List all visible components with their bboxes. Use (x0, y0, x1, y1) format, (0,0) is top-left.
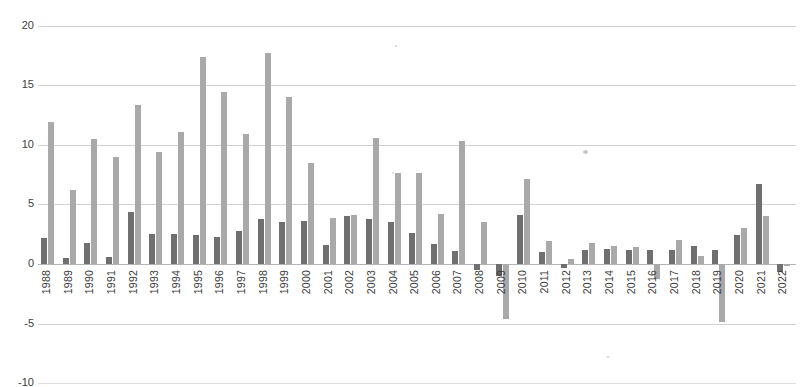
x-tick-label-2022: 2022 (777, 270, 787, 294)
x-tick-label-2020: 2020 (734, 270, 744, 294)
x-axis-labels: 1988198919901991199219931994199519961997… (38, 0, 796, 387)
x-tick-label-1991: 1991 (106, 270, 116, 294)
x-tick-label-2002: 2002 (344, 270, 354, 294)
bar-chart: 20151050-5-10 19881989199019911992199319… (0, 0, 810, 387)
x-tick-label-2012: 2012 (561, 270, 571, 294)
scan-artifact (392, 172, 394, 174)
x-tick-label-1988: 1988 (41, 270, 51, 294)
y-tick-label-10: 10 (4, 139, 34, 150)
x-tick-label-1999: 1999 (279, 270, 289, 294)
y-tick-label--10: -10 (4, 377, 34, 387)
x-tick-label-2003: 2003 (366, 270, 376, 294)
x-tick-label-1989: 1989 (63, 270, 73, 294)
x-tick-label-1998: 1998 (258, 270, 268, 294)
scan-artifact (607, 356, 609, 358)
x-tick-label-1994: 1994 (171, 270, 181, 294)
x-tick-label-1992: 1992 (128, 270, 138, 294)
x-tick-label-2001: 2001 (323, 270, 333, 294)
x-tick-label-2007: 2007 (452, 270, 462, 294)
x-tick-label-2000: 2000 (301, 270, 311, 294)
x-tick-label-1997: 1997 (236, 270, 246, 294)
x-tick-label-2015: 2015 (626, 270, 636, 294)
x-tick-label-2014: 2014 (604, 270, 614, 294)
x-tick-label-2011: 2011 (539, 270, 549, 293)
x-tick-label-2019: 2019 (712, 270, 722, 294)
x-tick-label-2009: 2009 (496, 270, 506, 294)
x-tick-label-2008: 2008 (474, 270, 484, 294)
x-tick-label-2018: 2018 (691, 270, 701, 294)
y-tick-label-15: 15 (4, 79, 34, 90)
y-tick-label-20: 20 (4, 20, 34, 31)
x-tick-label-2013: 2013 (582, 270, 592, 294)
scan-artifact (583, 150, 588, 154)
x-tick-label-1990: 1990 (84, 270, 94, 294)
y-axis-labels: 20151050-5-10 (0, 0, 34, 387)
x-tick-label-2021: 2021 (756, 270, 766, 294)
scan-artifact (395, 45, 397, 47)
x-tick-label-2010: 2010 (517, 270, 527, 294)
y-tick-label-0: 0 (4, 258, 34, 269)
x-tick-label-2016: 2016 (647, 270, 657, 294)
x-tick-label-2005: 2005 (409, 270, 419, 294)
y-tick-label-5: 5 (4, 198, 34, 209)
x-tick-label-2004: 2004 (388, 270, 398, 294)
y-tick-label--5: -5 (4, 318, 34, 329)
x-tick-label-1995: 1995 (193, 270, 203, 294)
x-tick-label-2017: 2017 (669, 270, 679, 294)
x-tick-label-2006: 2006 (431, 270, 441, 294)
x-tick-label-1993: 1993 (149, 270, 159, 294)
x-tick-label-1996: 1996 (214, 270, 224, 294)
